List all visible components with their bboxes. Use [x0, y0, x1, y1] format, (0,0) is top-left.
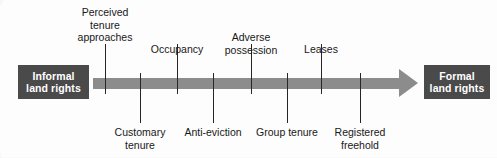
label-line-2: tenure: [78, 19, 133, 32]
label-perceived-tenure-approaches: Perceived tenure approaches: [78, 6, 133, 44]
label-line-2: freehold: [335, 139, 386, 152]
tick-perceived-tenure-approaches: [105, 44, 107, 94]
land-rights-continuum-diagram: Informal land rights Formal land rights …: [0, 0, 497, 158]
label-line-1: Leases: [304, 43, 338, 56]
informal-box-line-2: land rights: [26, 82, 81, 95]
tick-customary-tenure: [140, 73, 142, 123]
label-adverse-possession: Adverse possession: [225, 31, 278, 56]
label-registered-freehold: Registered freehold: [335, 126, 386, 151]
tick-anti-eviction: [213, 73, 215, 123]
formal-box-line-2: land rights: [430, 82, 485, 95]
tick-group-tenure: [287, 73, 289, 123]
label-customary-tenure: Customary tenure: [115, 126, 166, 151]
label-line-2: tenure: [115, 139, 166, 152]
formal-box-line-1: Formal: [430, 70, 485, 83]
label-line-3: approaches: [78, 31, 133, 44]
label-line-1: Anti-eviction: [184, 126, 241, 139]
label-line-1: Perceived: [78, 6, 133, 19]
informal-land-rights-box: Informal land rights: [18, 65, 89, 99]
label-occupancy: Occupancy: [151, 43, 204, 56]
label-anti-eviction: Anti-eviction: [184, 126, 241, 139]
tick-registered-freehold: [360, 73, 362, 123]
continuum-arrow-head-icon: [399, 69, 418, 97]
formal-land-rights-box: Formal land rights: [424, 65, 490, 99]
label-group-tenure: Group tenure: [256, 126, 318, 139]
label-line-1: Registered: [335, 126, 386, 139]
label-line-1: Customary: [115, 126, 166, 139]
label-line-2: possession: [225, 44, 278, 57]
informal-box-line-1: Informal: [26, 70, 81, 83]
label-line-1: Adverse: [225, 31, 278, 44]
label-leases: Leases: [304, 43, 338, 56]
label-line-1: Group tenure: [256, 126, 318, 139]
label-line-1: Occupancy: [151, 43, 204, 56]
